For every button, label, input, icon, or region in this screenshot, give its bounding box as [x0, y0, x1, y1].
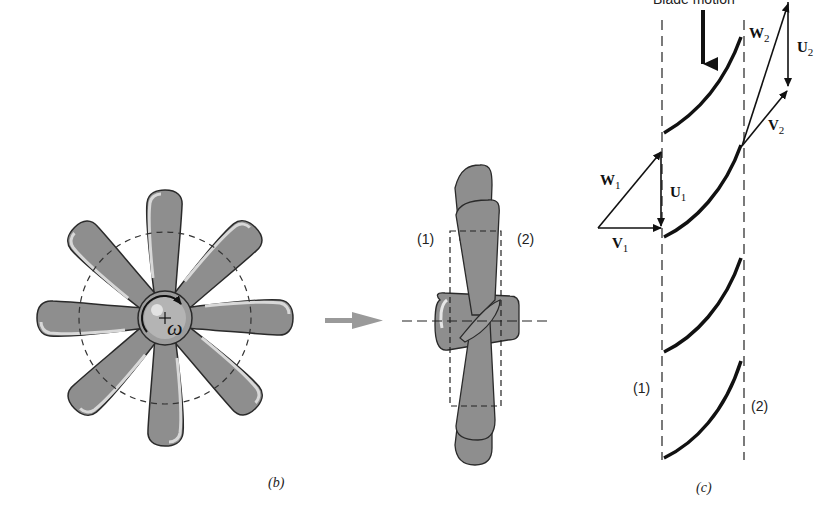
U1-label: U1 [670, 184, 686, 203]
caption-c: (c) [696, 480, 712, 496]
cascade-blade [664, 258, 741, 352]
U2-label: U2 [797, 39, 813, 58]
V2-vector [742, 91, 787, 146]
omega-label: ω [167, 315, 183, 340]
cascade-blade [664, 361, 741, 458]
caption-b: (b) [268, 475, 285, 491]
fan-blade [147, 190, 183, 300]
section-2-label: (2) [517, 231, 534, 247]
W1-label: W1 [600, 172, 621, 191]
cascade-section-1-label: (1) [633, 380, 650, 396]
fan-blade [148, 336, 184, 446]
V1-label: V1 [612, 235, 628, 254]
fan-blade [37, 301, 147, 337]
fan-blade [183, 300, 293, 336]
fan-front-view: ω [37, 190, 293, 446]
cascade-section-2-label: (2) [751, 398, 768, 414]
section-1-label: (1) [417, 231, 434, 247]
blade-motion-label: Blade motion [653, 0, 735, 7]
V2-label: V2 [768, 117, 784, 136]
figure-canvas: ω (1) (2) (b) Blade motion [0, 0, 829, 513]
W2-label: W2 [749, 25, 770, 44]
fan-side-view: (1) (2) [402, 165, 552, 465]
blade-cascade: Blade motion W1 U1 V1 W2 U2 V2 (1) (2) (… [598, 0, 813, 496]
W1-vector [598, 152, 661, 228]
transition-arrow-icon [325, 312, 383, 329]
